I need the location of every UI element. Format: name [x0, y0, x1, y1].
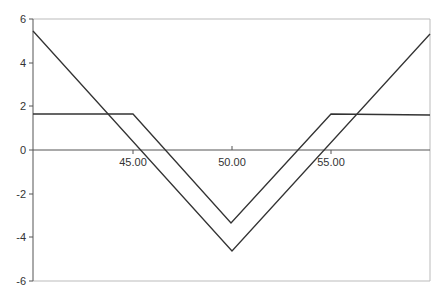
svg-text:2: 2	[20, 100, 26, 112]
payoff-chart: 6 4 2 0 -2 -4 -6 45.00 50.00 55.00	[0, 0, 444, 299]
y-tick-labels: 6 4 2 0 -2 -4 -6	[16, 13, 26, 287]
svg-text:-4: -4	[16, 231, 26, 243]
svg-text:45.00: 45.00	[119, 156, 147, 168]
svg-text:-2: -2	[16, 188, 26, 200]
y-ticks	[29, 19, 33, 281]
svg-text:4: 4	[20, 57, 26, 69]
svg-text:55.00: 55.00	[317, 156, 345, 168]
svg-text:50.00: 50.00	[218, 156, 246, 168]
svg-text:-6: -6	[16, 275, 26, 287]
svg-text:0: 0	[20, 144, 26, 156]
series-flat-wings	[33, 114, 430, 223]
series-v-payoff	[33, 31, 430, 251]
svg-text:6: 6	[20, 13, 26, 25]
x-tick-labels: 45.00 50.00 55.00	[119, 156, 345, 168]
